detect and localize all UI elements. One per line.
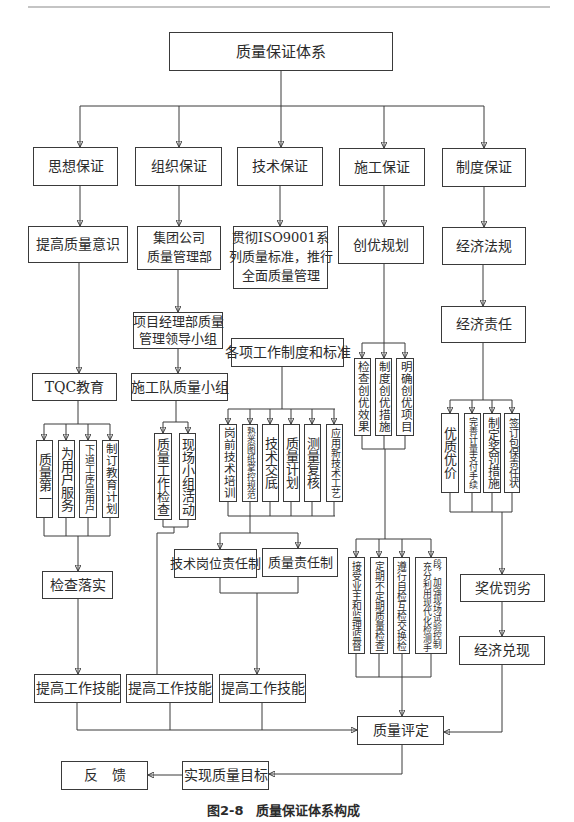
technical-item-label: 熟悉图纸掌控规范 [246,427,255,499]
excellence-node: 制度创优措施 [375,358,392,436]
check-node: 检查落实 [42,571,113,599]
measure-node: 制定奖罚措施 [483,413,501,493]
testing-columns: 充分利用现代化检测手 段，加强现场试验控制 [421,559,441,652]
root-node: 质量保证体系 [169,32,393,71]
skill-node-thought: 提高工作技能 [34,674,121,703]
items-merge [220,502,335,533]
iso-standard-node: 贯彻ISO9001系 列质量标准，推行 全面质量管理 [233,226,328,289]
pillar-thought-label: 思想保证 [48,158,104,175]
post-responsibility-label: 技术岗位责任制 [170,556,261,572]
department-line-1: 集团公司 [153,229,205,248]
evaluation-label: 质量评定 [373,722,429,739]
inspection-label: 遵行自检互检交换检 [397,561,407,651]
root-label: 质量保证体系 [236,43,326,61]
quality-responsibility-label: 质量责任制 [268,555,333,571]
plan-label: 创优规划 [353,237,409,254]
excellence-node: 明确创优项目 [396,358,414,436]
principle-label: 下道工序是用户 [83,444,93,514]
principle-node: 质量第一 [36,440,53,518]
responsibilities-merge [220,577,298,593]
pillar-institution-label: 制度保证 [456,159,512,176]
technical-item-node: 岗前技术培训 [219,424,237,502]
principle-node: 为用户服务 [58,440,75,518]
measure-label: 优质优价 [444,427,457,479]
skill-node-technology: 提高工作技能 [219,674,306,703]
technical-item-node: 测量复核 [304,424,321,502]
goal-node: 实现质量目标 [182,761,269,790]
feedback-label: 反 馈 [84,767,126,784]
measures-merge [450,493,512,512]
economic-responsibility-label: 经济责任 [456,316,512,333]
technical-item-label: 测量复核 [306,437,319,489]
pillar-technology-label: 技术保证 [252,158,308,175]
iso-standard-line-2: 列质量标准，推行 [229,248,333,267]
awareness-node: 提高质量意识 [28,226,128,263]
team-label: 施工队质量小组 [131,379,229,396]
leadership-group-node: 项目经理部质量 管理领导小组 [133,312,223,349]
department-node: 集团公司 质量管理部 [137,226,221,270]
measure-label: 完善计量支付手续 [468,417,477,489]
team-node: 施工队质量小组 [131,373,228,401]
fulfillment-node: 经济兑现 [459,636,545,665]
incentive-node: 奖优罚劣 [460,574,545,602]
check-label: 检查落实 [50,577,106,594]
technical-item-node: 应用新技术工艺 [326,424,343,502]
measure-node: 完善计量支付手续 [464,413,481,493]
inspection-label: 接受业主和监理监督 [352,561,362,651]
measure-label: 制定奖罚措施 [486,417,498,489]
excellence-node: 检查创优效果 [354,358,371,436]
laws-node: 经济法规 [442,227,526,265]
quality-responsibility-node: 质量责任制 [262,548,338,577]
post-responsibility-node: 技术岗位责任制 [174,549,257,578]
pillar-organization: 组织保证 [135,147,222,186]
technical-item-label: 技术交底 [264,437,277,489]
iso-standard-line-3: 全面质量管理 [242,267,320,286]
principles-merge [44,518,110,536]
inspection-node: 接受业主和监理监督 [348,557,365,654]
pillar-organization-label: 组织保证 [151,158,207,175]
activities-to-skill-2 [157,520,188,674]
measure-label: 签订包保责任状 [507,418,517,488]
quality-assurance-diagram: 质量保证体系 思想保证 组织保证 技术保证 施工保证 制度保证 提高质量意识 集… [0,0,574,822]
measure-node: 优质优价 [441,413,459,493]
testing-label-part-1: 充分利用现代化检测手 [421,562,430,652]
technical-item-node: 熟悉图纸掌控规范 [242,424,258,502]
inspections-merge [356,654,431,677]
activity-node: 质量工作检查 [154,433,172,520]
testing-label-part-2: 段，加强现场试验控制 [432,559,441,649]
principle-node: 下道工序是用户 [79,440,97,518]
laws-label: 经济法规 [456,238,512,255]
tqc-education-node: TQC教育 [32,373,117,401]
inspection-node: 定期不定期质量检查 [370,557,388,654]
team-stem [163,401,188,422]
principle-label: 为用户服务 [60,447,73,512]
goal-label: 实现质量目标 [184,767,268,784]
arrow-to-evaluation-from-fulfillment [444,665,502,732]
plan-stem [362,264,405,343]
technical-item-node: 质量计划 [283,424,300,502]
activity-node: 现场小组活动 [179,433,196,520]
activity-label: 现场小组活动 [181,438,194,516]
department-line-2: 质量管理部 [147,248,212,267]
responsibility-stem [450,343,512,400]
activity-label: 质量工作检查 [157,438,170,516]
rules-node: 各项工作制度和标准 [231,338,344,367]
pillar-construction-label: 施工保证 [354,159,410,176]
iso-standard-line-1: 贯彻ISO9001系 [232,229,329,248]
skill-node-organization: 提高工作技能 [126,674,213,703]
skill-label: 提高工作技能 [128,680,212,697]
technical-item-node: 技术交底 [262,424,279,502]
inspection-label: 定期不定期质量检查 [374,561,384,651]
pillar-thought: 思想保证 [33,147,118,186]
skills-merge [77,703,262,730]
rules-label: 各项工作制度和标准 [225,344,351,361]
excellence-merge [356,436,431,539]
evaluation-node: 质量评定 [357,716,444,745]
figure-caption: 图2-8 质量保证体系构成 [207,800,361,819]
pillar-institution: 制度保证 [442,148,526,187]
feedback-node: 反 馈 [61,761,148,790]
measure-node: 签订包保责任状 [504,413,520,493]
principle-label: 质量第一 [38,453,51,505]
inspection-node: 遵行自检互检交换检 [393,557,410,654]
incentive-label: 奖优罚劣 [475,580,531,597]
